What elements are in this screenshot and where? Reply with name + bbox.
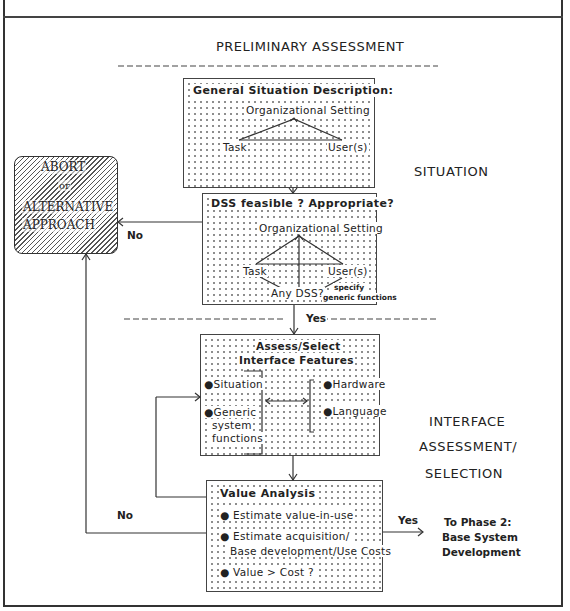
dss-task-label: Task — [242, 265, 268, 277]
generic-functions-label: generic functions — [322, 293, 398, 302]
abort-line4: APPROACH — [22, 218, 96, 232]
dss-org-setting-label: Organizational Setting — [258, 222, 384, 234]
yes-value-label: Yes — [398, 514, 418, 526]
abort-line3: ALTERNATIVE — [22, 200, 114, 214]
general-users-label: User(s) — [327, 141, 369, 153]
language-item: ●Language — [322, 405, 388, 417]
situation-item: ●Situation — [203, 378, 264, 390]
abort-line2: or — [58, 180, 71, 191]
next-phase-line2: Base System — [442, 531, 518, 543]
value-item-2: ● Estimate acquisition/ — [219, 530, 351, 542]
no-dss-label: No — [127, 229, 143, 241]
interface-phase-label: INTERFACE — [429, 414, 505, 429]
any-dss-label: Any DSS? — [270, 287, 325, 299]
interface-title-line2: Interface Features — [238, 354, 355, 366]
system-item: system — [211, 419, 253, 431]
functions-item: functions — [211, 432, 264, 444]
value-item-1: ● Estimate value-in-use — [219, 509, 355, 521]
yes-dss-label: Yes — [305, 312, 327, 324]
next-phase-line1: To Phase 2: — [444, 516, 511, 528]
assessment-phase-label: ASSESSMENT/ — [419, 439, 517, 454]
bullet-icon: ● — [220, 509, 229, 521]
bullet-icon: ● — [220, 566, 229, 578]
dss-users-label: User(s) — [327, 265, 369, 277]
next-phase-line3: Development — [442, 546, 521, 558]
general-situation-title: General Situation Description: — [192, 84, 394, 97]
interface-title-line1: Assess/Select — [255, 340, 342, 352]
general-task-label: Task — [222, 141, 248, 153]
hardware-item: ●Hardware — [322, 378, 387, 390]
specify-label: specify — [333, 283, 365, 292]
situation-phase-label: SITUATION — [414, 164, 489, 179]
dss-feasible-title: DSS feasible ? Appropriate? — [210, 197, 395, 210]
value-item-3: ● Value > Cost ? — [219, 566, 315, 578]
bullet-icon: ● — [220, 530, 229, 542]
generic-item: ●Generic — [203, 406, 257, 418]
value-analysis-title: Value Analysis — [219, 487, 316, 500]
abort-line1: ABORT — [40, 160, 86, 174]
no-value-label: No — [117, 509, 133, 521]
selection-phase-label: SELECTION — [425, 466, 503, 481]
general-org-setting-label: Organizational Setting — [245, 104, 371, 116]
value-item-2-cont: Base development/Use Costs — [229, 545, 392, 557]
